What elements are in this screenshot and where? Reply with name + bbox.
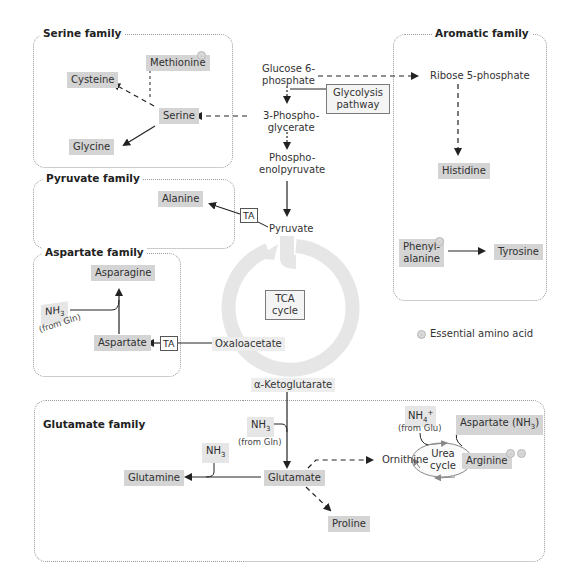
urea-line2: cycle (430, 460, 456, 472)
essential-marker-icon: ◦ (197, 51, 206, 60)
nh3-donor-glutamine: NH3 (202, 443, 229, 463)
pep-line2: enolpyruvate (259, 164, 325, 176)
oxaloacetate-node: Oxaloacetate (212, 337, 285, 351)
phenylalanine-line2: alanine (403, 253, 440, 265)
nh4-charge: + (427, 409, 433, 417)
glycine-node: Glycine (69, 139, 114, 155)
glycolysis-pathway-box: Glycolysis pathway (326, 84, 390, 114)
aspartate-nh3-label: Aspartate (NH (460, 417, 531, 428)
nh4-label: NH (408, 410, 423, 421)
serine-node: Serine (159, 108, 199, 124)
proline-node: Proline (328, 516, 370, 532)
essential-marker-icon: ◦ (435, 237, 444, 246)
nh3-subscript: 3 (266, 425, 270, 433)
nh3-subscript: 3 (221, 451, 225, 459)
from-glu-label: (from Glu) (398, 423, 441, 433)
transaminase-box: TA (240, 208, 258, 223)
nh3-label: NH (206, 445, 221, 456)
glucose-6-phosphate-line1: Glucose 6- (262, 63, 315, 75)
aspartate-nh3-close: ) (535, 417, 539, 428)
urea-cycle-label: Urea cycle (430, 448, 456, 472)
essential-marker-icon: ◦ (517, 449, 526, 458)
tyrosine-node: Tyrosine (494, 244, 543, 260)
aspartate-node: Aspartate (94, 335, 151, 351)
tca-line1: TCA (272, 293, 298, 305)
pep-line1: Phospho- (259, 152, 325, 164)
ribose-5-phosphate-node: Ribose 5-phosphate (430, 70, 530, 82)
glucose-6-phosphate-node: Glucose 6- phosphate (262, 63, 315, 87)
glycolysis-line1: Glycolysis (333, 87, 383, 99)
arginine-node: Arginine (462, 453, 512, 469)
aspartate-nh3-node: Aspartate (NH3) (456, 415, 543, 435)
tca-cycle-box: TCA cycle (265, 290, 305, 320)
glutamine-node: Glutamine (124, 470, 184, 486)
glycolysis-line2: pathway (333, 99, 383, 111)
3pg-line1: 3-Phospho- (263, 110, 319, 122)
essential-legend-icon: ◦ (417, 330, 426, 339)
nh3-donor-glutamate: NH3 (247, 417, 274, 437)
phosphoenolpyruvate-node: Phospho- enolpyruvate (259, 152, 325, 176)
alanine-node: Alanine (158, 191, 203, 207)
glucose-6-phosphate-line2: phosphate (262, 75, 315, 87)
nh3-label: NH (45, 304, 60, 317)
asparagine-node: Asparagine (91, 265, 155, 281)
transaminase-box: TA (160, 336, 178, 351)
tca-line2: cycle (272, 305, 298, 317)
ornithine-node: Ornithine (382, 454, 428, 466)
histidine-node: Histidine (438, 163, 490, 179)
urea-line1: Urea (430, 448, 456, 460)
3-phosphoglycerate-node: 3-Phospho- glycerate (263, 110, 319, 134)
3pg-line2: glycerate (263, 122, 319, 134)
amino-acid-biosynthesis-diagram: Serine family Pyruvate family Aspartate … (0, 0, 572, 570)
glutamate-node: Glutamate (264, 470, 325, 486)
alpha-ketoglutarate-node: α-Ketoglutarate (251, 378, 335, 392)
pyruvate-node: Pyruvate (269, 223, 314, 235)
essential-marker-icon: ◦ (506, 449, 515, 458)
cysteine-node: Cysteine (67, 72, 118, 88)
nh3-label: NH (251, 419, 266, 430)
essential-legend-label: Essential amino acid (430, 328, 533, 339)
from-gln-label: (from Gln) (238, 437, 281, 447)
